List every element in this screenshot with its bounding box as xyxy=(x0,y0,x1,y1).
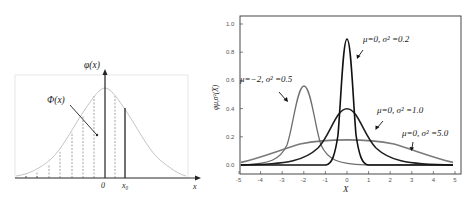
y-tick-label: 0.4 xyxy=(226,106,235,112)
right-chart-normal-pdfs: 0.0 0.2 0.4 0.6 0.8 1.0 -5 -4 -3 -2 -1 0… xyxy=(211,16,461,194)
left-chart-normal-cdf: φ(x) Φ(x) 0 x₀ x xyxy=(15,60,201,191)
right-x-axis-label: X xyxy=(342,184,349,194)
y-tick-label: 0.2 xyxy=(226,134,235,140)
y-tick-label: 0.0 xyxy=(226,162,235,168)
y-tick-label: 1.0 xyxy=(226,21,235,27)
y-axis-arrow-icon xyxy=(103,69,108,75)
arrow-head-icon xyxy=(96,134,98,136)
x-tick-label: 2 xyxy=(389,177,393,183)
x-tick-label: -3 xyxy=(279,177,285,183)
x-tick-label: 1 xyxy=(367,177,371,183)
left-chart-frame xyxy=(15,75,188,178)
figure: φ(x) Φ(x) 0 x₀ x 0.0 0.2 0.4 0.6 0.8 1.0 xyxy=(0,0,471,203)
x-tick-label: 0 xyxy=(345,177,349,183)
x-tick-label: 5 xyxy=(453,177,457,183)
arrow-var5 xyxy=(412,142,413,148)
x-tick-label: 3 xyxy=(410,177,414,183)
label-mu0-var1: μ=0, σ² =1.0 xyxy=(376,105,424,115)
y-tick-label: 0.6 xyxy=(226,77,235,83)
label-mu-2-var05: μ=−2, σ² =0.5 xyxy=(239,74,293,84)
density-curve xyxy=(16,88,186,176)
arrow-head-icon xyxy=(357,55,361,60)
origin-label: 0 xyxy=(101,181,105,190)
x-tick-label: 4 xyxy=(432,177,436,183)
right-chart-frame xyxy=(240,16,461,174)
left-y-axis-label: φ(x) xyxy=(84,60,100,71)
curve-mu0-var5 xyxy=(241,140,453,163)
curve-mu0-var02 xyxy=(241,39,453,165)
x-axis-arrow-icon xyxy=(195,176,201,181)
cdf-annotation-label: Φ(x) xyxy=(47,95,65,106)
area-hatch-lines xyxy=(26,96,115,178)
x-tick-label: -5 xyxy=(236,177,242,183)
y-tick-label: 0.8 xyxy=(226,49,235,55)
x0-label: x₀ xyxy=(121,181,129,190)
x-tick-label: -2 xyxy=(301,177,307,183)
x-tick-label: -4 xyxy=(258,177,264,183)
label-mu0-var5: μ=0, σ² =5.0 xyxy=(401,128,449,138)
label-mu0-var02: μ=0, σ² =0.2 xyxy=(362,34,410,44)
x-tick-label: -1 xyxy=(322,177,328,183)
phi-annotation-arrow xyxy=(70,105,96,134)
right-y-axis-label: φμ,σ²(X) xyxy=(211,84,220,110)
left-x-axis-label: x xyxy=(192,182,197,191)
